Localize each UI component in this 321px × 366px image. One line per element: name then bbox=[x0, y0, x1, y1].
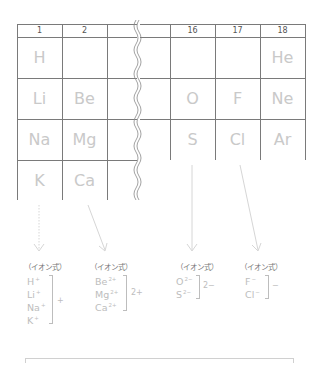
ion-formula-label: （イオン式） bbox=[240, 261, 282, 272]
ion-formula-label: （イオン式） bbox=[24, 261, 66, 272]
arrow-group17-icon bbox=[240, 165, 258, 250]
ion-S: S2− bbox=[176, 286, 191, 301]
bracket-icon bbox=[265, 275, 269, 299]
bracket-icon bbox=[196, 275, 200, 299]
ion-formula-label: （イオン式） bbox=[90, 261, 132, 272]
arrows-layer bbox=[0, 0, 321, 260]
bracket-icon bbox=[49, 275, 53, 324]
bracket-charge: 2+ bbox=[131, 288, 143, 297]
bottom-bracket-tick bbox=[293, 358, 294, 363]
bottom-bracket-tick bbox=[25, 358, 26, 363]
ion-formula-label: （イオン式） bbox=[176, 261, 218, 272]
bracket-charge: 2− bbox=[203, 281, 215, 290]
ion-Cl: Cl− bbox=[245, 286, 260, 301]
bracket-icon bbox=[123, 275, 127, 311]
bottom-bracket-line bbox=[25, 358, 293, 359]
bracket-charge: − bbox=[272, 281, 279, 290]
arrow-group2-icon bbox=[88, 205, 105, 250]
bracket-charge: + bbox=[57, 296, 64, 305]
ion-Ca: Ca2+ bbox=[95, 299, 117, 314]
ion-K: K+ bbox=[27, 312, 39, 327]
